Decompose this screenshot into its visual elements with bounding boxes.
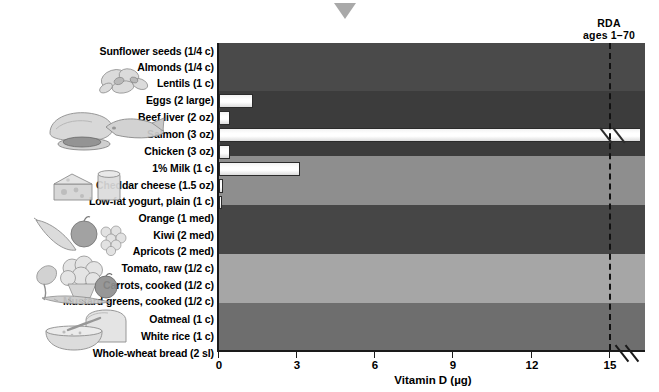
bar-salmon	[219, 128, 640, 142]
plot-area	[219, 43, 645, 350]
fruit-basket-illustration	[30, 212, 134, 260]
x-tick-0	[218, 352, 219, 358]
band-grains	[219, 303, 645, 350]
rda-reference-line	[609, 43, 611, 350]
row-label-milk: 1% Milk (1 c)	[152, 162, 214, 174]
x-tick-label-9: 9	[450, 359, 456, 371]
row-label-orange: Orange (1 med)	[138, 212, 214, 224]
x-tick-9	[452, 352, 453, 358]
x-tick-label-6: 6	[372, 359, 378, 371]
x-tick-label-3: 3	[294, 359, 300, 371]
poultry-and-fish-illustration	[40, 105, 168, 151]
row-label-apricots: Apricots (2 med)	[133, 245, 214, 257]
row-label-white-rice: White rice (1 c)	[141, 330, 214, 342]
vegetables-illustration	[24, 254, 136, 306]
bread-and-oatmeal-illustration	[38, 308, 136, 354]
row-label-oatmeal: Oatmeal (1 c)	[149, 313, 214, 325]
row-label-lentils: Lentils (1 c)	[157, 77, 214, 89]
bar-low-fat-yogurt	[219, 196, 222, 209]
bar-cheddar-cheese	[219, 179, 223, 193]
bar-eggs	[219, 94, 253, 108]
x-axis-line	[217, 350, 645, 352]
rda-annotation-line1: RDA	[563, 17, 655, 29]
x-axis-title: Vitamin D (µg)	[394, 374, 471, 386]
bar-milk-1-percent	[219, 162, 300, 176]
y-axis-line	[217, 43, 219, 350]
x-tick-label-0: 0	[216, 359, 222, 371]
x-tick-3	[296, 352, 297, 358]
marker-triangle-icon	[334, 3, 356, 19]
rda-annotation-line2: ages 1–70	[563, 29, 655, 41]
bar-chicken	[219, 145, 230, 159]
x-tick-label-15: 15	[604, 359, 617, 371]
x-tick-15	[609, 352, 610, 358]
band-nuts-seeds-legumes	[219, 43, 645, 91]
cheese-and-milk-illustration	[48, 168, 128, 210]
x-tick-12	[531, 352, 532, 358]
band-vegetables	[219, 254, 645, 303]
vitamin-d-food-sources-chart: RDA ages 1–70 0 3 6 9 12 15	[0, 0, 659, 392]
row-label-kiwi: Kiwi (2 med)	[153, 229, 214, 241]
nuts-and-seeds-illustration	[96, 63, 158, 97]
row-label-sunflower-seeds: Sunflower seeds (1/4 c)	[100, 45, 214, 57]
band-fruits	[219, 205, 645, 254]
band-protein-meat-fish	[219, 91, 645, 156]
bar-beef-liver	[219, 111, 230, 125]
x-tick-6	[374, 352, 375, 358]
x-tick-label-12: 12	[526, 359, 539, 371]
rda-annotation: RDA ages 1–70	[563, 17, 655, 41]
